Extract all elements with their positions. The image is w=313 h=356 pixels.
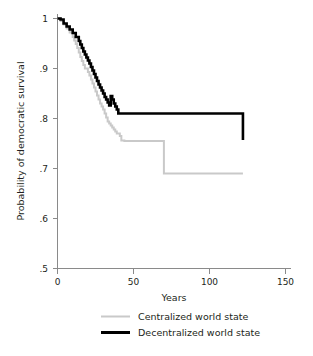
x-axis-ticks: 0 50 100 150 xyxy=(55,269,295,288)
series-line-centralized xyxy=(58,19,243,174)
y-tick-label-07: .7 xyxy=(39,164,48,174)
legend-label-decentralized: Decentralized world state xyxy=(138,327,260,338)
y-axis-title: Probability of democratic survival xyxy=(15,61,26,220)
y-tick-label-1: 1 xyxy=(42,14,48,24)
legend-label-centralized: Centralized world state xyxy=(138,311,249,322)
y-tick-label-05: .5 xyxy=(39,264,48,274)
kaplan-meier-plot: 1 .9 .8 .7 .6 .5 0 50 100 150 Years Prob… xyxy=(0,0,313,356)
y-tick-label-09: .9 xyxy=(39,64,48,74)
x-tick-label-50: 50 xyxy=(128,277,140,287)
x-tick-label-150: 150 xyxy=(277,277,294,287)
x-tick-label-100: 100 xyxy=(201,277,218,287)
y-axis-ticks: 1 .9 .8 .7 .6 .5 xyxy=(39,14,57,274)
survival-chart-figure: 1 .9 .8 .7 .6 .5 0 50 100 150 Years Prob… xyxy=(0,0,313,356)
x-axis-title: Years xyxy=(160,292,186,303)
y-tick-label-06: .6 xyxy=(39,214,48,224)
series-line-decentralized xyxy=(58,19,243,141)
x-tick-label-0: 0 xyxy=(55,277,61,287)
y-tick-label-08: .8 xyxy=(39,114,48,124)
chart-legend: Centralized world state Decentralized wo… xyxy=(101,311,260,338)
